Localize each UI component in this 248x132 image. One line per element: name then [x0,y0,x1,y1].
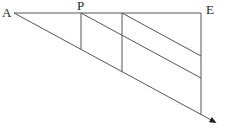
ray-A-transversal [14,13,213,121]
diagram-canvas: APE [0,0,248,132]
geometry-figure: APE [0,0,248,132]
point-label-A: A [2,5,12,20]
segment-parallel-from-P [81,13,201,78]
segment-parallel-from-mid [122,13,201,56]
labels-layer: APE [2,0,214,20]
point-label-P: P [77,0,84,13]
point-label-E: E [206,2,214,17]
lines-layer [14,13,213,121]
